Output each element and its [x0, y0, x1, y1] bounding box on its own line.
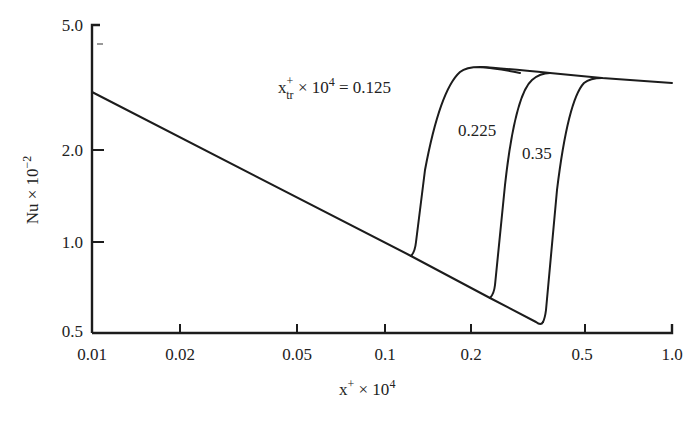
svg-text:Nu × 10−2: Nu × 10−2 [20, 156, 42, 225]
transition-curve-0.125 [411, 67, 520, 256]
x-label-0.02: 0.02 [165, 345, 195, 364]
x-label-0.5: 0.5 [571, 345, 592, 364]
annotation-xtr-0.125: x+tr × 104 = 0.125 [278, 74, 391, 102]
x-label-0.2: 0.2 [460, 345, 481, 364]
x-label-1.0: 1.0 [661, 345, 682, 364]
y-axis-title: Nu × 10−2 [20, 156, 42, 225]
x-label-0.01: 0.01 [77, 345, 107, 364]
y-label-1.0: 1.0 [62, 233, 83, 252]
x-label-0.05: 0.05 [282, 345, 312, 364]
annotation-0.35: 0.35 [522, 144, 552, 163]
x-label-0.1: 0.1 [374, 345, 395, 364]
y-label-0.5: 0.5 [62, 322, 83, 341]
annotation-0.225: 0.225 [458, 121, 496, 140]
transition-curve-0.225 [490, 73, 550, 298]
x-axis-title: x+ × 104 [339, 377, 395, 399]
y-label-2.0: 2.0 [62, 141, 83, 160]
transition-curve-0.35 [543, 78, 602, 322]
y-axis [92, 25, 100, 333]
turbulent-plateau [480, 67, 672, 83]
nusselt-chart: 5.0 2.0 1.0 0.5 0.01 0.02 0.05 0.1 0.2 0… [0, 0, 696, 421]
y-label-5.0: 5.0 [62, 16, 83, 35]
